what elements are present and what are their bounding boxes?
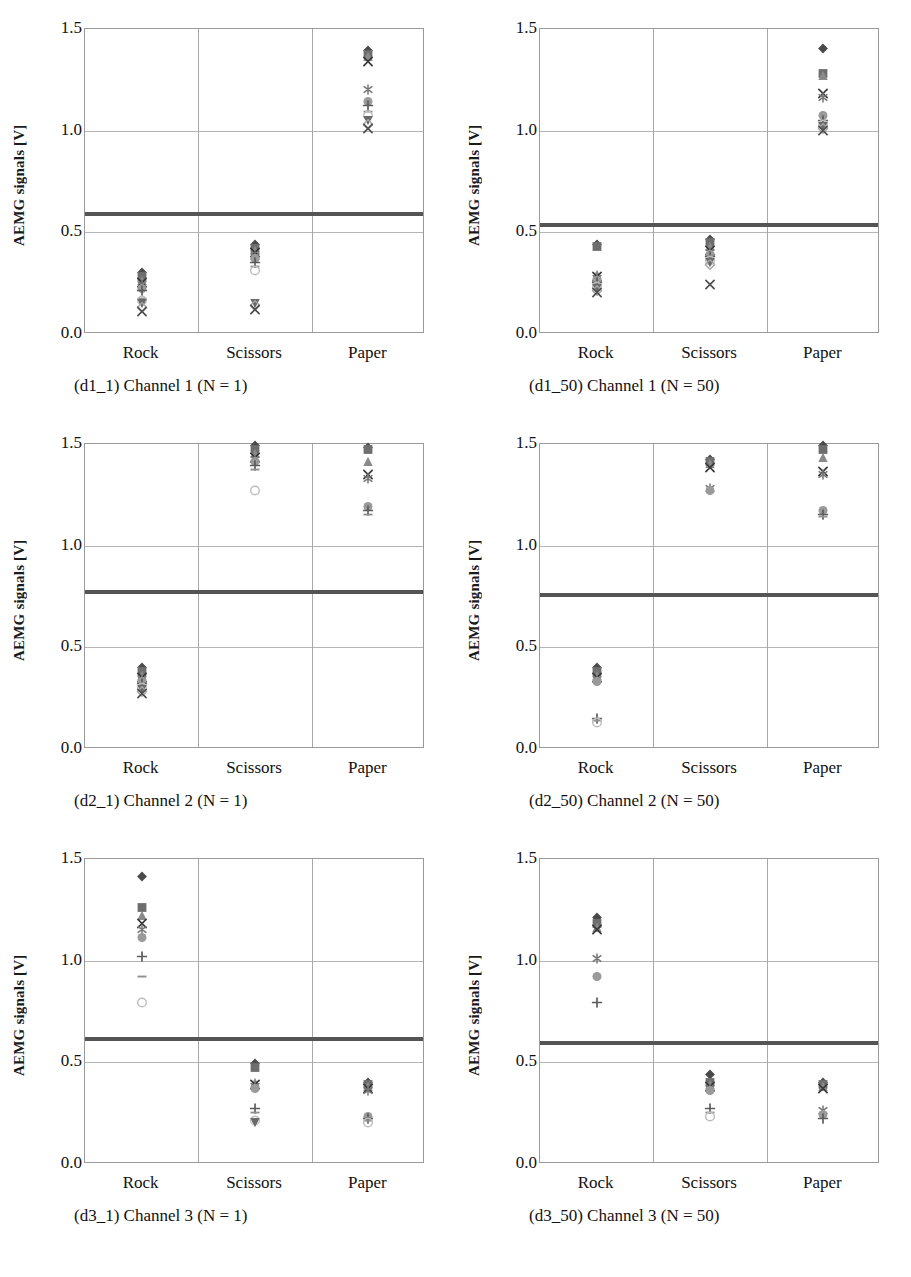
- data-point: [818, 466, 829, 484]
- data-point: [363, 466, 374, 484]
- data-point: [591, 284, 602, 302]
- category-separator: [767, 29, 768, 332]
- x-tick-label: Paper: [311, 1173, 424, 1193]
- chart-panel-d3_1: AEMG signals [V]0.00.51.01.5RockScissors…: [0, 830, 455, 1250]
- y-tick-label: 0.5: [493, 221, 537, 241]
- data-point: [818, 1102, 829, 1120]
- data-point: [250, 1080, 261, 1098]
- data-point: [363, 81, 374, 99]
- x-axis-labels: RockScissorsPaper: [539, 758, 879, 778]
- y-axis-title: AEMG signals [V]: [8, 455, 30, 745]
- y-axis-ticks: 0.00.51.01.5: [30, 415, 82, 830]
- y-tick-label: 0.0: [493, 738, 537, 758]
- panel-caption: (d2_50) Channel 2 (N = 50): [529, 791, 719, 811]
- data-point: [136, 303, 147, 321]
- panel-caption: (d1_50) Channel 1 (N = 50): [529, 376, 719, 396]
- y-tick-label: 0.0: [38, 1153, 82, 1173]
- data-point: [818, 1106, 829, 1124]
- chart-panel-d2_1: AEMG signals [V]0.00.51.01.5RockScissors…: [0, 415, 455, 830]
- data-point: [136, 685, 147, 703]
- y-tick-label: 1.0: [493, 120, 537, 140]
- x-tick-label: Scissors: [197, 758, 310, 778]
- y-tick-label: 1.0: [493, 535, 537, 555]
- data-point: [591, 282, 602, 300]
- data-point: [591, 968, 602, 986]
- data-point: [250, 1078, 261, 1096]
- chart-panel-d1_1: AEMG signals [V]0.00.51.01.5RockScissors…: [0, 0, 455, 415]
- data-point: [705, 1078, 716, 1096]
- x-tick-label: Paper: [766, 343, 879, 363]
- data-point: [705, 1066, 716, 1084]
- data-point: [136, 282, 147, 300]
- data-point: [591, 714, 602, 732]
- data-point: [591, 950, 602, 968]
- gridline: [85, 546, 423, 547]
- gridline: [540, 232, 878, 233]
- data-point: [250, 457, 261, 475]
- data-point: [818, 449, 829, 467]
- data-point: [136, 274, 147, 292]
- y-tick-label: 1.5: [38, 18, 82, 38]
- threshold-line: [85, 1037, 423, 1041]
- data-point: [136, 280, 147, 298]
- data-point: [250, 1114, 261, 1132]
- category-separator: [653, 29, 654, 332]
- y-axis-ticks: 0.00.51.01.5: [485, 830, 537, 1250]
- data-point: [250, 1100, 261, 1118]
- data-point: [136, 679, 147, 697]
- data-point: [705, 252, 716, 270]
- data-point: [363, 470, 374, 488]
- y-tick-label: 0.5: [38, 636, 82, 656]
- y-tick-label: 0.5: [38, 221, 82, 241]
- data-point: [136, 268, 147, 286]
- category-separator: [767, 859, 768, 1162]
- data-point: [363, 506, 374, 524]
- data-point: [818, 118, 829, 136]
- data-point: [250, 236, 261, 254]
- x-tick-label: Paper: [311, 758, 424, 778]
- data-point: [705, 480, 716, 498]
- y-tick-label: 1.5: [493, 433, 537, 453]
- plot-area: [539, 28, 879, 333]
- x-tick-label: Rock: [84, 1173, 197, 1193]
- data-point: [591, 266, 602, 284]
- data-point: [705, 459, 716, 477]
- data-point: [250, 301, 261, 319]
- data-point: [136, 669, 147, 687]
- data-point: [591, 268, 602, 286]
- data-point: [363, 107, 374, 125]
- data-point: [705, 1074, 716, 1092]
- data-point: [136, 915, 147, 933]
- category-separator: [312, 29, 313, 332]
- data-point: [705, 1080, 716, 1098]
- data-point: [250, 297, 261, 315]
- panel-caption: (d3_1) Channel 3 (N = 1): [74, 1206, 247, 1226]
- y-tick-label: 1.5: [38, 433, 82, 453]
- data-point: [818, 85, 829, 103]
- data-point: [591, 667, 602, 685]
- data-point: [591, 671, 602, 689]
- data-point: [591, 236, 602, 254]
- data-point: [136, 663, 147, 681]
- gridline: [540, 961, 878, 962]
- data-point: [136, 948, 147, 966]
- data-point: [136, 299, 147, 317]
- data-point: [250, 244, 261, 262]
- data-point: [363, 120, 374, 138]
- y-tick-label: 1.0: [38, 120, 82, 140]
- chart-panel-d3_50: AEMG signals [V]0.00.51.01.5RockScissors…: [455, 830, 911, 1250]
- data-point: [591, 710, 602, 728]
- data-point: [591, 921, 602, 939]
- y-tick-label: 1.5: [493, 848, 537, 868]
- data-point: [250, 1104, 261, 1122]
- data-point: [250, 242, 261, 260]
- category-separator: [198, 859, 199, 1162]
- data-point: [136, 921, 147, 939]
- x-axis-labels: RockScissorsPaper: [84, 1173, 424, 1193]
- gridline: [540, 131, 878, 132]
- data-point: [818, 1074, 829, 1092]
- data-point: [136, 295, 147, 313]
- data-point: [363, 112, 374, 130]
- data-point: [136, 659, 147, 677]
- category-separator: [312, 444, 313, 747]
